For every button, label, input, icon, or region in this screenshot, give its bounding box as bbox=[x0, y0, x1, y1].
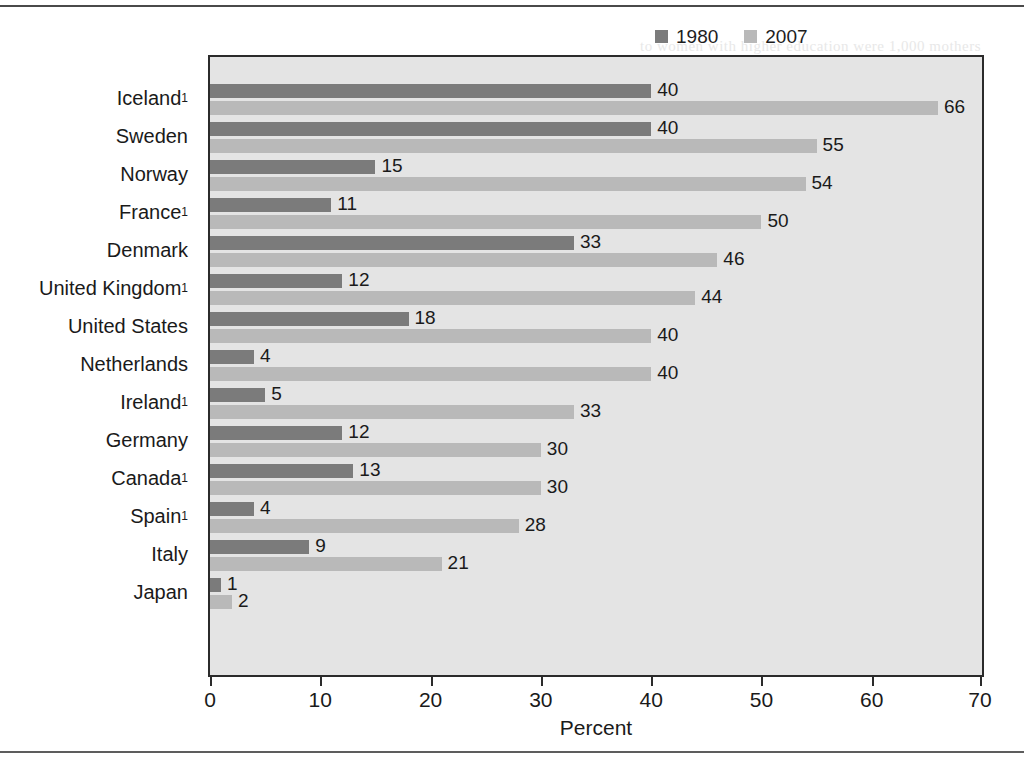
bar-value-label: 30 bbox=[547, 442, 568, 456]
bar-value-label: 33 bbox=[580, 404, 601, 418]
category-label-germany: Germany bbox=[106, 421, 188, 459]
chart-row: 440 bbox=[210, 347, 982, 385]
category-label-text: Canada bbox=[111, 467, 181, 490]
legend-swatch-icon bbox=[744, 30, 757, 43]
bar-value-label: 40 bbox=[657, 366, 678, 380]
category-label-text: Japan bbox=[134, 581, 189, 604]
bar-1980-italy bbox=[210, 540, 309, 554]
bar-value-label: 2 bbox=[238, 594, 249, 608]
chart-row: 1330 bbox=[210, 461, 982, 499]
bar-value-label: 33 bbox=[580, 235, 601, 249]
legend-swatch-icon bbox=[655, 30, 668, 43]
category-label-italy: Italy bbox=[151, 535, 188, 573]
bar-value-label: 18 bbox=[415, 311, 436, 325]
bar-1980-canada bbox=[210, 464, 353, 478]
chart-row: 921 bbox=[210, 537, 982, 575]
category-label-ireland: Ireland1 bbox=[120, 383, 188, 421]
bar-1980-sweden bbox=[210, 122, 651, 136]
bar-2007-united-kingdom bbox=[210, 291, 695, 305]
bar-value-label: 28 bbox=[525, 518, 546, 532]
x-axis-tick bbox=[872, 677, 874, 686]
bar-1980-united-kingdom bbox=[210, 274, 342, 288]
bar-1980-united-states bbox=[210, 312, 409, 326]
bar-value-label: 21 bbox=[448, 556, 469, 570]
category-label-text: Denmark bbox=[107, 239, 188, 262]
bar-1980-denmark bbox=[210, 236, 574, 250]
legend-entry: 2007 bbox=[744, 27, 807, 46]
category-label-iceland: Iceland1 bbox=[117, 79, 188, 117]
bar-2007-germany bbox=[210, 443, 541, 457]
x-axis-title: Percent bbox=[208, 716, 984, 740]
bar-value-label: 15 bbox=[381, 159, 402, 173]
chart-legend: 19802007 bbox=[655, 26, 808, 46]
category-label-text: Norway bbox=[120, 163, 188, 186]
bar-1980-france bbox=[210, 198, 331, 212]
chart-row: 3346 bbox=[210, 233, 982, 271]
bar-value-label: 12 bbox=[348, 425, 369, 439]
chart-row: 533 bbox=[210, 385, 982, 423]
bar-1980-spain bbox=[210, 502, 254, 516]
category-label-text: Italy bbox=[151, 543, 188, 566]
bar-value-label: 4 bbox=[260, 349, 271, 363]
x-axis-tick-label: 20 bbox=[419, 689, 442, 710]
category-label-canada: Canada1 bbox=[111, 459, 188, 497]
category-label-text: Spain bbox=[130, 505, 181, 528]
bar-2007-italy bbox=[210, 557, 442, 571]
category-axis-labels: Iceland1SwedenNorwayFrance1DenmarkUnited… bbox=[0, 55, 198, 677]
x-axis-tick bbox=[210, 677, 212, 686]
bar-2007-france bbox=[210, 215, 761, 229]
category-label-norway: Norway bbox=[120, 155, 188, 193]
bar-value-label: 54 bbox=[812, 176, 833, 190]
x-axis-tick-label: 0 bbox=[204, 689, 216, 710]
x-axis-tick-label: 50 bbox=[750, 689, 773, 710]
plot-area: 4066405515541150334612441840440533123013… bbox=[208, 55, 984, 677]
bar-value-label: 46 bbox=[723, 252, 744, 266]
bar-value-label: 40 bbox=[657, 328, 678, 342]
chart-row: 1554 bbox=[210, 157, 982, 195]
x-axis-tick bbox=[431, 677, 433, 686]
x-axis-tick-label: 60 bbox=[860, 689, 883, 710]
category-label-sweden: Sweden bbox=[116, 117, 188, 155]
bar-value-label: 55 bbox=[823, 138, 844, 152]
chart-row: 1840 bbox=[210, 309, 982, 347]
x-axis-tick bbox=[320, 677, 322, 686]
bar-1980-germany bbox=[210, 426, 342, 440]
chart-row: 4066 bbox=[210, 81, 982, 119]
bar-value-label: 40 bbox=[657, 83, 678, 97]
category-label-text: United States bbox=[68, 315, 188, 338]
bar-value-label: 30 bbox=[547, 480, 568, 494]
chart-row: 4055 bbox=[210, 119, 982, 157]
x-axis-tick-label: 30 bbox=[529, 689, 552, 710]
category-label-france: France1 bbox=[119, 193, 188, 231]
category-label-united-kingdom: United Kingdom1 bbox=[39, 269, 188, 307]
x-axis-tick-label: 40 bbox=[639, 689, 662, 710]
bar-value-label: 11 bbox=[337, 197, 357, 211]
bar-chart-figure: 19802007 Iceland1SwedenNorwayFrance1Denm… bbox=[0, 0, 1024, 769]
category-label-text: Ireland bbox=[120, 391, 181, 414]
category-label-text: Germany bbox=[106, 429, 188, 452]
category-label-text: France bbox=[119, 201, 181, 224]
bar-value-label: 44 bbox=[701, 290, 722, 304]
bar-value-label: 12 bbox=[348, 273, 369, 287]
bar-value-label: 1 bbox=[227, 577, 238, 591]
category-label-denmark: Denmark bbox=[107, 231, 188, 269]
bar-1980-ireland bbox=[210, 388, 265, 402]
category-label-text: Sweden bbox=[116, 125, 188, 148]
chart-row: 1230 bbox=[210, 423, 982, 461]
chart-row: 1150 bbox=[210, 195, 982, 233]
bar-1980-netherlands bbox=[210, 350, 254, 364]
bar-1980-iceland bbox=[210, 84, 651, 98]
chart-row: 1244 bbox=[210, 271, 982, 309]
bar-value-label: 9 bbox=[315, 539, 326, 553]
bar-1980-norway bbox=[210, 160, 375, 174]
bar-2007-spain bbox=[210, 519, 519, 533]
bar-2007-norway bbox=[210, 177, 806, 191]
category-label-united-states: United States bbox=[68, 307, 188, 345]
bar-2007-ireland bbox=[210, 405, 574, 419]
bar-2007-canada bbox=[210, 481, 541, 495]
category-label-text: Netherlands bbox=[80, 353, 188, 376]
x-axis-tick bbox=[980, 677, 982, 686]
bar-value-label: 40 bbox=[657, 121, 678, 135]
x-axis-tick bbox=[761, 677, 763, 686]
category-label-text: United Kingdom bbox=[39, 277, 181, 300]
